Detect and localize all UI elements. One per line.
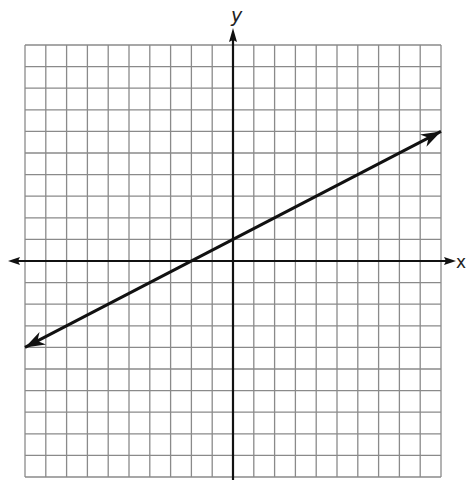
y-axis-label: y xyxy=(230,4,243,26)
coordinate-plane: y x xyxy=(0,0,475,480)
x-axis-label: x xyxy=(456,252,466,272)
y-axis-up-arrow-icon xyxy=(229,28,237,42)
